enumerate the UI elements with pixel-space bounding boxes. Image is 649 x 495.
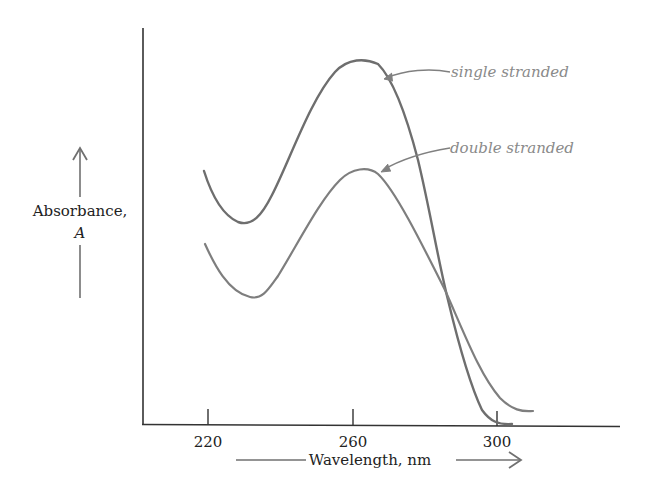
x-ticks bbox=[208, 409, 497, 426]
tick-label-220: 220 bbox=[194, 433, 223, 451]
axes bbox=[142, 28, 620, 427]
annotation-arrow-line-single bbox=[386, 70, 450, 78]
x-axis-label-group: Wavelength, nm bbox=[236, 451, 521, 469]
tick-label-260: 260 bbox=[339, 433, 368, 451]
x-axis-label: Wavelength, nm bbox=[309, 451, 431, 469]
annotation-single-stranded: single stranded bbox=[384, 63, 569, 81]
label-single-stranded: single stranded bbox=[451, 63, 569, 81]
annotation-double-stranded: double stranded bbox=[381, 139, 574, 172]
curve-double-stranded bbox=[205, 169, 533, 411]
y-axis-symbol: A bbox=[73, 224, 86, 242]
curve-single-stranded bbox=[204, 60, 512, 424]
x-axis bbox=[142, 425, 620, 427]
y-axis-label-group: Absorbance, A bbox=[32, 148, 128, 298]
annotation-arrowhead-double-icon bbox=[381, 164, 391, 172]
absorbance-spectrum-chart: 220 260 300 Wavelength, nm Absorbance, A… bbox=[0, 0, 649, 495]
label-double-stranded: double stranded bbox=[450, 139, 574, 157]
y-axis-label: Absorbance, bbox=[32, 202, 128, 220]
tick-label-300: 300 bbox=[483, 433, 512, 451]
